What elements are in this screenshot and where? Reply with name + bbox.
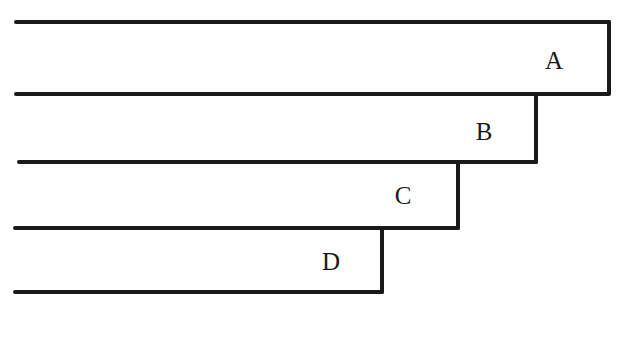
label-b: B bbox=[476, 119, 493, 144]
stepped-bar-diagram bbox=[0, 0, 620, 347]
label-c: C bbox=[395, 183, 412, 208]
label-d: D bbox=[322, 249, 340, 274]
label-a: A bbox=[545, 48, 563, 73]
